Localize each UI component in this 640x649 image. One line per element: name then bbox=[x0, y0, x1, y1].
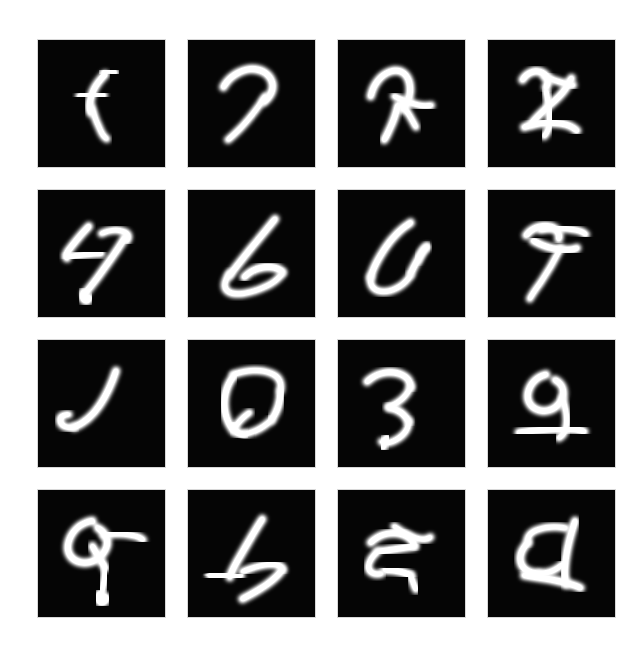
digit-sample-tile: 7 bbox=[488, 190, 615, 317]
digit-stroke bbox=[524, 575, 580, 588]
digit-sample-tile: 4 bbox=[188, 490, 315, 617]
digit-stroke bbox=[271, 391, 280, 420]
digit-stroke-canvas bbox=[188, 40, 315, 167]
digit-sample-tile: 3 bbox=[338, 340, 465, 467]
digit-stroke-canvas bbox=[38, 190, 165, 317]
digit-stroke-canvas bbox=[38, 40, 165, 167]
digit-stroke bbox=[60, 414, 75, 427]
digit-stroke bbox=[389, 407, 409, 422]
digit-stroke bbox=[367, 372, 411, 387]
digit-stroke bbox=[228, 96, 265, 140]
digit-sample-tile: 5 bbox=[338, 490, 465, 617]
digit-sample-tile: 6 bbox=[188, 190, 315, 317]
digit-stroke-canvas bbox=[38, 340, 165, 467]
digit-stroke bbox=[519, 429, 584, 433]
digit-stroke bbox=[244, 420, 271, 435]
digit-stroke bbox=[102, 568, 106, 593]
digit-stroke bbox=[242, 564, 282, 571]
digit-stroke bbox=[98, 593, 106, 602]
digit-stroke bbox=[383, 438, 387, 447]
digit-stroke bbox=[530, 248, 561, 299]
digit-stroke-canvas bbox=[338, 190, 465, 317]
digit-stroke bbox=[541, 229, 586, 235]
digit-sample-tile: f bbox=[38, 40, 165, 167]
digit-stroke bbox=[411, 575, 416, 590]
digit-sample-tile: d bbox=[488, 490, 615, 617]
digit-stroke bbox=[80, 94, 104, 96]
digit-stroke bbox=[233, 371, 281, 391]
digit-stroke bbox=[385, 570, 410, 575]
digit-stroke bbox=[371, 223, 411, 277]
digit-stroke-canvas bbox=[188, 490, 315, 617]
digit-sample-tile: J bbox=[38, 340, 165, 467]
digit-stroke-canvas bbox=[38, 490, 165, 617]
digit-stroke-canvas bbox=[188, 340, 315, 467]
digit-stroke bbox=[533, 241, 577, 250]
digit-stroke-canvas bbox=[188, 190, 315, 317]
digit-stroke-canvas bbox=[488, 490, 615, 617]
digit-sample-tile: 9 bbox=[488, 340, 615, 467]
digit-sample-tile: 0 bbox=[188, 340, 315, 467]
digit-stroke bbox=[103, 71, 115, 73]
digit-stroke bbox=[92, 107, 107, 139]
digit-stroke-canvas bbox=[338, 340, 465, 467]
digit-stroke-canvas bbox=[488, 40, 615, 167]
digit-stroke bbox=[539, 564, 563, 573]
digit-stroke bbox=[210, 575, 241, 576]
digit-stroke bbox=[67, 254, 101, 258]
digit-stroke bbox=[74, 371, 116, 427]
digit-stroke-canvas bbox=[488, 340, 615, 467]
digit-sample-tile: n bbox=[338, 40, 465, 167]
digit-sample-tile: 8 bbox=[488, 40, 615, 167]
digit-stroke bbox=[520, 543, 539, 574]
digit-sample-tile: 6 bbox=[338, 190, 465, 317]
digit-sample-tile: 7 bbox=[188, 40, 315, 167]
digit-stroke-canvas bbox=[338, 40, 465, 167]
digit-sample-grid: f7n847667J039945d bbox=[38, 40, 608, 618]
digit-stroke-canvas bbox=[488, 190, 615, 317]
digit-stroke bbox=[370, 275, 410, 291]
digit-stroke bbox=[242, 570, 282, 599]
digit-sample-tile: 9 bbox=[38, 490, 165, 617]
digit-sample-tile: 47 bbox=[38, 190, 165, 317]
digit-stroke-canvas bbox=[338, 490, 465, 617]
digit-stroke bbox=[378, 546, 414, 551]
digit-stroke bbox=[384, 105, 398, 139]
digit-stroke bbox=[528, 374, 564, 411]
digit-stroke bbox=[527, 527, 566, 543]
digit-stroke bbox=[235, 413, 250, 428]
